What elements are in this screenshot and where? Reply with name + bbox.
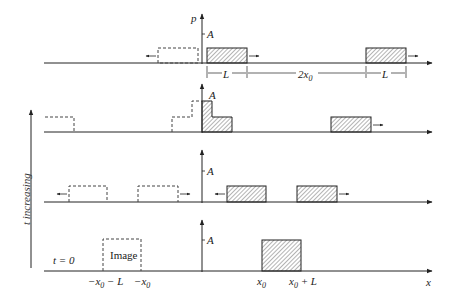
panel-3 — [44, 150, 432, 203]
panel-1 — [44, 14, 432, 78]
amplitude-label-1: A — [207, 29, 214, 40]
dimension-L-right: L — [382, 69, 388, 80]
tick-x0-plus-L: x0 + L — [289, 276, 317, 290]
image-label: Image — [110, 250, 137, 261]
tick-text: −x — [134, 275, 146, 287]
dimension-sub: 0 — [308, 74, 312, 83]
t-zero-label: t = 0 — [53, 255, 74, 266]
amplitude-label-2: A — [209, 90, 216, 101]
tick-sub: 0 — [146, 281, 150, 290]
time-increasing-label: t increasing — [21, 173, 32, 225]
tick-rest: − L — [104, 275, 123, 287]
x-axis-label: x — [426, 277, 431, 288]
reflection-diagram: p A L 2x0 L A A A t increasing t = 0 Ima… — [0, 0, 454, 299]
tick-sub: 0 — [262, 281, 266, 290]
time-label-text: t increasing — [20, 173, 32, 225]
amplitude-label-4: A — [207, 235, 214, 246]
dimension-2x0: 2x0 — [298, 69, 312, 83]
p-axis-label: p — [191, 13, 197, 24]
panel-4 — [44, 220, 432, 272]
tick-neg-x0-minus-L: −x0 − L — [88, 276, 123, 290]
amplitude-label-3: A — [207, 166, 214, 177]
dimension-L-left: L — [223, 69, 229, 80]
panel-2 — [44, 84, 432, 133]
tick-rest: + L — [298, 275, 317, 287]
tick-x0: x0 — [257, 276, 266, 290]
tick-neg-x0: −x0 — [134, 276, 150, 290]
dimension-2x-text: 2x — [298, 68, 308, 80]
tick-text: −x — [88, 275, 100, 287]
